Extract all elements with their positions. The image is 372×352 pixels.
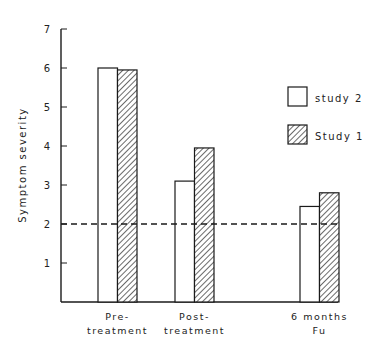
y-tick-label: 6 — [44, 63, 50, 74]
x-category-label-line: treatment — [87, 324, 148, 338]
bar-study-1 — [320, 193, 340, 302]
bar-study-2 — [300, 206, 320, 302]
legend — [288, 87, 307, 144]
x-category-label-line: Pre- — [87, 310, 148, 324]
bar-study-2 — [98, 68, 118, 302]
y-tick-label: 4 — [44, 141, 50, 152]
x-category-label: 6 monthsFu — [291, 310, 348, 338]
bar-study-2 — [175, 181, 195, 302]
y-tick-label: 5 — [44, 102, 50, 113]
x-category-label-line: treatment — [164, 324, 225, 338]
y-tick-label: 2 — [44, 219, 50, 230]
plot-area — [0, 0, 372, 352]
legend-swatch — [288, 87, 307, 106]
x-category-label: Post-treatment — [164, 310, 225, 338]
y-axis-title: Symptom severity — [17, 107, 28, 222]
bar-chart: 1234567Pre-treatmentPost-treatment6 mont… — [0, 0, 372, 352]
y-tick-label: 1 — [44, 258, 50, 269]
y-tick-label: 7 — [44, 24, 50, 35]
x-category-label: Pre-treatment — [87, 310, 148, 338]
y-tick-label: 3 — [44, 180, 50, 191]
bar-study-1 — [118, 70, 138, 302]
x-category-label-line: Fu — [291, 324, 348, 338]
legend-label: Study 1 — [315, 131, 364, 142]
legend-swatch — [288, 125, 307, 144]
x-category-label-line: 6 months — [291, 310, 348, 324]
x-category-label-line: Post- — [164, 310, 225, 324]
legend-label: study 2 — [315, 93, 363, 104]
bar-study-1 — [195, 148, 215, 302]
